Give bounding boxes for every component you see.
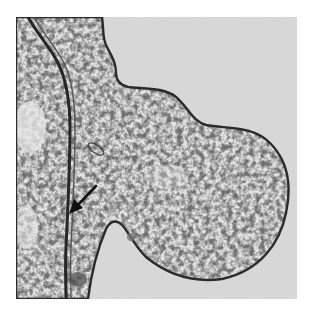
extracellular-particle (127, 233, 135, 241)
micrograph-plate (16, 17, 297, 299)
figure-caption (80, 306, 310, 313)
organelle (69, 272, 87, 286)
micrograph-image (16, 17, 297, 299)
